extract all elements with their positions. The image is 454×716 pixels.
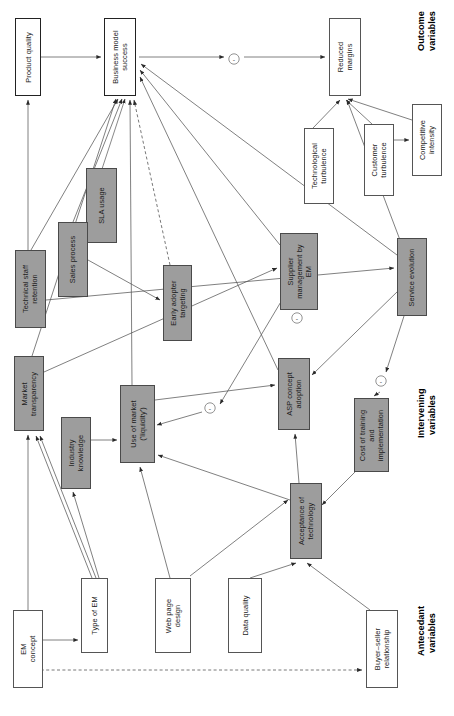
category-line-2: variables (427, 613, 437, 653)
node-label: ASP conceptadoption (285, 372, 303, 416)
node-label: Markettransparency (20, 372, 38, 416)
node-market-transparency[interactable]: Markettransparency (14, 356, 44, 431)
node-product-quality[interactable]: Product quality (15, 18, 41, 96)
node-reduced-margins[interactable]: Reducedmargins (329, 18, 361, 96)
node-label: EMconcept (19, 636, 37, 663)
node-label: Buyer–sellerrelationship (373, 628, 391, 670)
node-technical-staff-retention[interactable]: Technical staffretention (15, 250, 46, 328)
node-buyer-seller-relationship[interactable]: Buyer–sellerrelationship (366, 610, 398, 688)
node-data-quality[interactable]: Data quality (228, 578, 262, 653)
category-caption-outcome: Outcome variables (404, 20, 450, 80)
node-label: Web pagedesign (164, 598, 182, 632)
node-competitive-intensity[interactable]: Competitiveintensity (412, 104, 442, 176)
node-label: Competitiveintensity (418, 120, 436, 160)
node-service-evolution[interactable]: Service evolution (397, 238, 427, 316)
node-label: Service evolution (408, 248, 417, 306)
node-label: Data quality (241, 595, 250, 635)
category-line-2: variables (427, 11, 437, 51)
node-cost-of-training[interactable]: Cost of trainingandimplementation (354, 398, 389, 472)
node-sales-process[interactable]: Sales process (58, 222, 88, 297)
node-label: Reducedmargins (336, 42, 354, 72)
node-asp-concept-adoption[interactable]: ASP conceptadoption (278, 358, 310, 430)
node-label: Sales process (69, 236, 78, 284)
node-technological-turbulence[interactable]: Technologicalturbulence (304, 128, 334, 204)
node-web-page-design[interactable]: Web pagedesign (155, 578, 191, 653)
node-sla-usage[interactable]: SLA usage (86, 168, 117, 243)
node-business-model-success[interactable]: Business modelsuccess (104, 18, 136, 96)
node-industry-knowledge[interactable]: Industryknowledge (61, 417, 91, 489)
node-acceptance-of-technology[interactable]: Acceptance oftechnology (290, 483, 322, 559)
node-label: Technologicalturbulence (310, 143, 328, 189)
node-label: Business modelsuccess (111, 30, 129, 84)
node-label: Product quality (24, 32, 33, 82)
node-label: Type of EM (90, 596, 99, 634)
node-customer-turbulence[interactable]: Customerturbulence (364, 124, 394, 196)
node-label: Cost of trainingandimplementation (358, 409, 385, 461)
node-label: Technical staffretention (22, 265, 40, 313)
category-line-1: Antecedant (416, 606, 426, 656)
node-label: Customerturbulence (370, 142, 388, 178)
node-label: Industryknowledge (67, 435, 85, 471)
edge-layer (0, 0, 454, 716)
node-em-concept[interactable]: EMconcept (13, 610, 43, 688)
node-use-of-market[interactable]: Use of market('liquidity') (120, 385, 155, 463)
node-type-of-em[interactable]: Type of EM (81, 578, 108, 653)
category-line-1: Intervening (416, 388, 426, 438)
node-label: Early adoptertargeting (169, 280, 187, 325)
node-label: SLA usage (97, 187, 106, 224)
node-supplier-management-em[interactable]: Suppliermanagement byEM (280, 233, 318, 310)
category-line-1: Outcome (416, 11, 426, 51)
category-caption-antecedant: Antecedant variables (404, 622, 450, 682)
diagram-canvas: Product qualityBusiness modelsuccessRedu… (0, 0, 454, 716)
node-label: Suppliermanagement byEM (286, 244, 313, 298)
node-label: Acceptance oftechnology (297, 497, 315, 545)
node-label: Use of market('liquidity') (129, 400, 147, 447)
category-line-2: variables (427, 395, 437, 435)
category-caption-intervening: Intervening variables (404, 404, 450, 464)
node-early-adopter-targeting[interactable]: Early adoptertargeting (163, 265, 192, 341)
